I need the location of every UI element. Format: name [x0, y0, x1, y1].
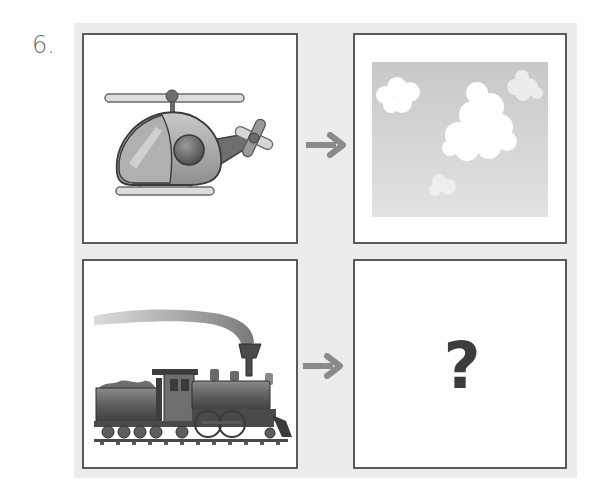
steam-train-icon — [84, 261, 296, 467]
sky-clouds-icon — [355, 35, 565, 242]
question-mark-icon: ? — [355, 261, 565, 467]
question-number: 6. — [32, 31, 55, 59]
frame-answer: ? — [353, 259, 567, 469]
frame-sky — [353, 33, 567, 244]
arrow-right-icon — [302, 353, 344, 379]
arrow-right-icon — [305, 132, 347, 158]
frame-train — [82, 259, 298, 469]
frame-helicopter — [82, 33, 298, 244]
helicopter-icon — [84, 35, 296, 242]
